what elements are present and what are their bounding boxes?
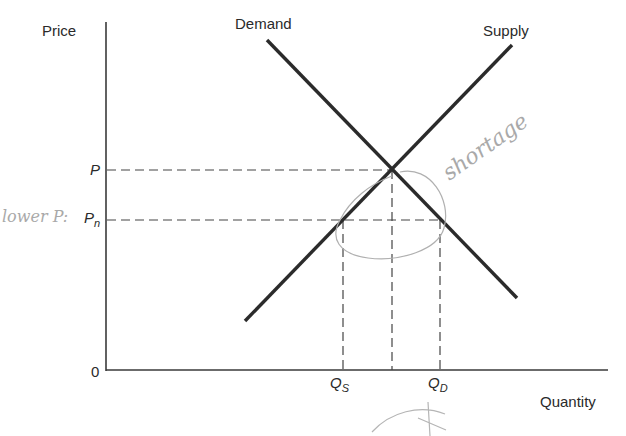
origin-label: 0 [91, 363, 99, 380]
supply-label: Supply [483, 22, 529, 39]
qs-main: Q [330, 374, 342, 391]
qd-main: Q [428, 374, 440, 391]
scribble-mark [372, 402, 446, 436]
supply-curve [245, 45, 512, 321]
qs-sub: S [342, 382, 349, 394]
lower-price-main: P [84, 209, 94, 226]
demand-label: Demand [235, 15, 292, 32]
quantity-demanded-label: QD [428, 374, 448, 394]
lower-price-sub: n [94, 217, 100, 229]
shortage-circle-annotation [336, 171, 446, 259]
handwritten-lower-price-note: lower P: [2, 207, 68, 226]
y-axis-label: Price [42, 22, 76, 39]
qd-sub: D [440, 382, 448, 394]
x-axis-label: Quantity [540, 393, 596, 410]
quantity-supplied-label: QS [330, 374, 349, 394]
equilibrium-price-label: P [90, 161, 100, 178]
lower-price-label: Pn [84, 209, 100, 229]
